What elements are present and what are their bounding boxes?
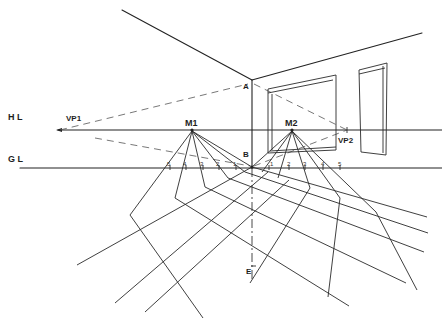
m2-label: M2: [285, 118, 298, 128]
ceiling-edge-right: [252, 33, 422, 80]
e-label: E: [246, 267, 252, 276]
m2-point: [290, 128, 293, 131]
m1-point: [190, 128, 193, 131]
tick-right-2: 2: [287, 161, 291, 167]
vp2-label: VP2: [338, 136, 354, 145]
m1-label: M1: [185, 118, 198, 128]
window-large: [268, 75, 336, 153]
b-point: [250, 165, 253, 168]
b-label: B: [243, 150, 249, 159]
tick-right-1: 1: [270, 161, 274, 167]
window-tall: [359, 63, 387, 155]
m1-rays: [130, 131, 252, 215]
ceiling-edge-left: [122, 10, 252, 80]
tick-right-3: 3: [303, 161, 307, 167]
vp1-label: VP1: [66, 114, 82, 123]
construction-line-a-vp1: [60, 84, 248, 130]
perspective-diagram: 5 4 3 2 1 1 2 3 4 5 H L G L VP1 VP2 M1 M…: [0, 0, 442, 325]
ground-line-label: G L: [8, 154, 24, 164]
horizon-line-label: H L: [8, 112, 23, 122]
a-label: A: [243, 82, 249, 91]
floor-grid-vp1: [77, 167, 417, 312]
tick-right-5: 5: [338, 161, 342, 167]
